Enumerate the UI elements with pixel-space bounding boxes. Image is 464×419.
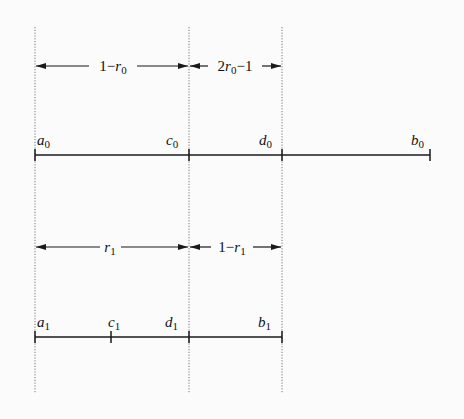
bottom-interval (35, 331, 282, 343)
dim-label-1-r1: 1−r1 (218, 239, 245, 257)
guide-lines (35, 27, 282, 393)
dim-label-2r0-1: 2r0−1 (218, 58, 253, 76)
label-c1: c1 (108, 314, 120, 332)
label-a0: a0 (37, 132, 51, 150)
golden-section-diagram: 1−r0 2r0−1 a0 c0 d0 b0 r1 1−r1 a1 c1 d1 … (0, 0, 464, 419)
label-b1: b1 (258, 314, 271, 332)
label-b0: b0 (411, 132, 425, 150)
dim-label-r1: r1 (104, 239, 115, 257)
label-a1: a1 (37, 314, 50, 332)
dim-label-1-r0: 1−r0 (99, 58, 127, 76)
label-d1: d1 (165, 314, 178, 332)
top-interval (35, 149, 430, 161)
label-d0: d0 (259, 132, 273, 150)
label-c0: c0 (166, 132, 179, 150)
